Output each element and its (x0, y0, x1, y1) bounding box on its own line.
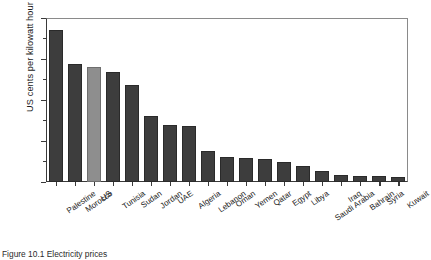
bar-rect (315, 171, 329, 182)
x-tick-mark (265, 182, 266, 186)
bar-rect (144, 116, 158, 182)
x-tick-mark (113, 182, 114, 186)
figure-caption: Figure 10.1 Electricity prices (2, 249, 107, 259)
x-tick-mark (322, 182, 323, 186)
bar-rect (163, 125, 177, 182)
bar-rect (182, 126, 196, 182)
bar-rect (201, 151, 215, 182)
x-tick-mark (75, 182, 76, 186)
x-tick-mark (379, 182, 380, 186)
x-tick-mark (56, 182, 57, 186)
bar-series (46, 18, 408, 182)
x-tick-label-kuwait: Kuwait (406, 189, 431, 210)
x-tick-mark (360, 182, 361, 186)
bar-rect (296, 166, 310, 182)
bar-rect (277, 162, 291, 183)
bar-rect (125, 85, 139, 182)
x-tick-mark (303, 182, 304, 186)
x-tick-mark (189, 182, 190, 186)
y-axis-title: US cents per kilowatt hour (25, 0, 35, 132)
x-tick-mark (151, 182, 152, 186)
x-tick-mark (208, 182, 209, 186)
bar-rect (106, 72, 120, 182)
bar-rect (49, 30, 63, 182)
x-tick-mark (341, 182, 342, 186)
bar-rect (87, 67, 101, 182)
bar-rect (239, 158, 253, 182)
x-tick-mark (94, 182, 95, 186)
x-tick-mark (284, 182, 285, 186)
x-tick-mark (246, 182, 247, 186)
bar-rect (258, 159, 272, 182)
x-tick-label-libya: Libya (310, 189, 331, 207)
x-tick-mark (132, 182, 133, 186)
bar-rect (220, 157, 234, 182)
bar-rect (334, 175, 348, 182)
x-tick-mark (227, 182, 228, 186)
x-tick-mark (170, 182, 171, 186)
x-tick-mark (398, 182, 399, 186)
bar-rect (68, 64, 82, 182)
